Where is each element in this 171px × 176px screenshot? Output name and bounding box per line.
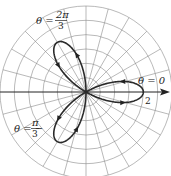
label-theta-minus-pi-3-denominator: 3 [32,129,38,139]
direction-arrow-2 [120,100,126,105]
tick-label-r2: 2 [145,96,151,106]
label-theta-2pi-3-prefix: θ = [36,15,54,26]
label-theta-minus-pi-3-numerator: π [31,117,39,128]
label-theta-2pi-3-denominator: 3 [58,21,64,31]
label-theta-minus-pi-3: θ = − π 3 [14,117,43,139]
label-theta-0: θ = 0 [138,75,166,86]
direction-arrow-1 [120,79,126,84]
polar-plot: θ = 0 2 θ = 2π 3 θ = − π 3 [0,0,171,176]
label-theta-2pi-3-numerator: 2π [55,9,69,20]
label-theta-2pi-3: θ = 2π 3 [36,9,69,31]
